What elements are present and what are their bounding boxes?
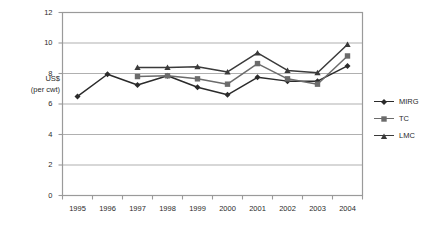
legend-label-tc: TC [399, 114, 409, 123]
legend-label-lmc: LMC [399, 131, 415, 140]
data-point-marker [135, 82, 141, 88]
legend-item-lmc[interactable]: LMC [374, 127, 434, 144]
data-point-marker [255, 61, 260, 66]
x-axis-tick-label: 1996 [93, 204, 123, 213]
data-point-marker [315, 81, 320, 86]
data-point-marker [254, 50, 260, 56]
x-axis-tick-label: 2001 [243, 204, 273, 213]
data-point-marker [345, 53, 350, 58]
y-axis-tick-label: 8 [37, 69, 53, 78]
legend-marker-triangle-icon [374, 130, 394, 141]
data-point-marker [135, 74, 140, 79]
data-point-marker [195, 84, 201, 90]
legend-marker-square-icon [374, 113, 394, 124]
x-axis-tick-label: 2002 [273, 204, 303, 213]
line-chart: US$ (per cwt) MIRG TC LMC 02468101219951… [0, 0, 435, 240]
y-axis-tick-label: 10 [37, 38, 53, 47]
data-point-marker [345, 63, 351, 69]
series-lmc [134, 42, 350, 76]
data-point-marker [195, 76, 200, 81]
y-axis-tick-label: 0 [37, 191, 53, 200]
x-axis-tick-label: 2004 [333, 204, 363, 213]
y-axis-title-line-2: (per cwt) [10, 84, 60, 95]
legend-item-tc[interactable]: TC [374, 110, 434, 127]
legend-label-mirg: MIRG [399, 97, 419, 106]
x-axis-tick-label: 2000 [213, 204, 243, 213]
data-point-marker [225, 81, 230, 86]
y-axis-title-line-1: US$ [10, 73, 60, 84]
y-axis-tick-label: 12 [37, 8, 53, 17]
data-point-marker [344, 42, 350, 48]
x-axis-tick-label: 1999 [183, 204, 213, 213]
data-point-marker [165, 73, 170, 78]
legend-marker-diamond-icon [374, 96, 394, 107]
data-point-marker [285, 76, 290, 81]
chart-legend: MIRG TC LMC [374, 93, 434, 144]
x-axis-tick-label: 1998 [153, 204, 183, 213]
x-axis-tick-label: 1995 [63, 204, 93, 213]
y-axis-tick-label: 4 [37, 130, 53, 139]
y-axis-tick-label: 2 [37, 160, 53, 169]
data-point-marker [255, 74, 261, 80]
legend-item-mirg[interactable]: MIRG [374, 93, 434, 110]
x-axis-tick-label: 1997 [123, 204, 153, 213]
series-tc [135, 53, 350, 87]
data-point-marker [225, 92, 231, 98]
y-axis-tick-label: 6 [37, 99, 53, 108]
x-axis-tick-label: 2003 [303, 204, 333, 213]
y-axis-title: US$ (per cwt) [10, 73, 60, 95]
